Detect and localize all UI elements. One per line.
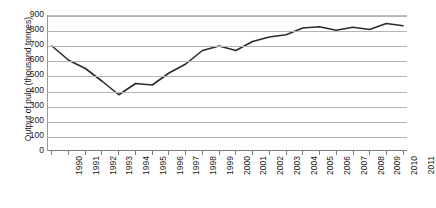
y-tick-label: 0	[39, 146, 44, 154]
plot-area	[47, 15, 407, 151]
x-tick-mark	[336, 151, 337, 155]
x-tick-label: 1992	[109, 156, 118, 196]
x-tick-label: 2001	[259, 156, 268, 196]
x-tick-mark	[202, 151, 203, 155]
x-tick-label: 2006	[343, 156, 352, 196]
x-tick-label: 1990	[75, 156, 84, 196]
gridline	[48, 61, 407, 62]
x-tick-mark	[235, 151, 236, 155]
x-tick-mark	[369, 151, 370, 155]
series-line-output-of-pulp	[48, 16, 407, 151]
x-tick-mark	[219, 151, 220, 155]
y-tick-label: 900	[30, 10, 44, 18]
x-axis-tick-labels: 1990199119921993199419951996199719981999…	[47, 156, 407, 204]
y-tick-label: 800	[30, 25, 44, 33]
x-tick-label: 1998	[209, 156, 218, 196]
x-tick-label: 2004	[310, 156, 319, 196]
x-tick-label: 2008	[377, 156, 386, 196]
y-tick-label: 400	[30, 86, 44, 94]
y-tick-label: 100	[30, 131, 44, 139]
y-tick-label: 300	[30, 101, 44, 109]
gridline	[48, 137, 407, 138]
x-tick-mark	[101, 151, 102, 155]
x-tick-label: 2009	[393, 156, 402, 196]
x-tick-label: 2003	[293, 156, 302, 196]
x-tick-label: 1996	[176, 156, 185, 196]
x-tick-label: 1993	[125, 156, 134, 196]
x-tick-mark	[302, 151, 303, 155]
y-tick-label: 200	[30, 116, 44, 124]
x-tick-mark	[403, 151, 404, 155]
x-tick-mark	[135, 151, 136, 155]
x-tick-label: 2000	[243, 156, 252, 196]
x-tick-mark	[286, 151, 287, 155]
x-tick-label: 1999	[226, 156, 235, 196]
x-tick-mark	[118, 151, 119, 155]
x-tick-mark	[269, 151, 270, 155]
gridline	[48, 31, 407, 32]
x-tick-label: 1991	[92, 156, 101, 196]
x-tick-mark	[386, 151, 387, 155]
gridline	[48, 76, 407, 77]
gridline	[48, 46, 407, 47]
gridline	[48, 107, 407, 108]
gridline	[48, 16, 407, 17]
x-tick-mark	[68, 151, 69, 155]
gridline	[48, 92, 407, 93]
x-tick-mark	[51, 151, 52, 155]
x-tick-mark	[168, 151, 169, 155]
gridline	[48, 122, 407, 123]
x-tick-label: 2005	[326, 156, 335, 196]
x-tick-label: 2010	[410, 156, 419, 196]
y-tick-label: 700	[30, 40, 44, 48]
y-tick-label: 500	[30, 70, 44, 78]
x-tick-mark	[185, 151, 186, 155]
x-tick-mark	[252, 151, 253, 155]
x-tick-label: 2002	[276, 156, 285, 196]
x-tick-mark	[152, 151, 153, 155]
x-tick-mark	[85, 151, 86, 155]
x-tick-label: 2007	[360, 156, 369, 196]
x-tick-mark	[319, 151, 320, 155]
x-tick-label: 2011	[427, 156, 436, 196]
y-axis-tick-labels: 9008007006005004003002001000	[12, 14, 44, 151]
x-tick-label: 1995	[159, 156, 168, 196]
x-tick-mark	[353, 151, 354, 155]
x-tick-label: 1994	[142, 156, 151, 196]
y-tick-label: 600	[30, 55, 44, 63]
x-tick-label: 1997	[192, 156, 201, 196]
